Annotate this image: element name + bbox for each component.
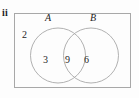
- set-a-circle: [31, 28, 86, 83]
- region-count-intersection: 9: [65, 55, 70, 65]
- set-a-label: A: [45, 13, 51, 23]
- region-count-outside: 2: [22, 30, 27, 40]
- region-count-b-only: 6: [84, 55, 89, 65]
- region-count-a-only: 3: [43, 55, 48, 65]
- item-numeral-label: ii: [2, 8, 8, 18]
- venn-diagram-graphics: [0, 0, 139, 98]
- set-b-label: B: [90, 13, 96, 23]
- venn-diagram-figure: ii A B 2 3 9 6: [0, 0, 139, 98]
- set-b-circle: [64, 28, 119, 83]
